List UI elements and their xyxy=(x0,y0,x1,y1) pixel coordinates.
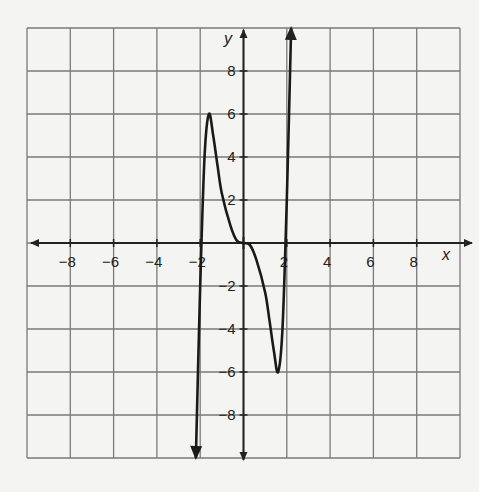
x-tick-label: −8 xyxy=(59,253,76,270)
x-axis-label: x xyxy=(441,246,451,263)
y-tick-label: −2 xyxy=(218,277,235,294)
x-tick-label: 8 xyxy=(410,253,418,270)
x-tick-label: 4 xyxy=(323,253,331,270)
function-graph: −8−6−4−224688642−2−4−6−8 x y xyxy=(0,0,479,492)
y-axis-label: y xyxy=(223,30,233,47)
function-curve xyxy=(190,28,291,460)
axes xyxy=(31,30,472,460)
x-tick-label: −6 xyxy=(102,253,119,270)
y-tick-label: 6 xyxy=(227,105,235,122)
y-tick-label: 8 xyxy=(227,62,235,79)
y-tick-label: −4 xyxy=(218,320,235,337)
x-tick-label: −2 xyxy=(189,253,206,270)
y-tick-label: 4 xyxy=(227,148,235,165)
y-tick-label: −8 xyxy=(218,406,235,423)
x-tick-label: −4 xyxy=(145,253,162,270)
y-tick-label: −6 xyxy=(218,363,235,380)
y-tick-label: 2 xyxy=(227,191,235,208)
x-tick-label: 6 xyxy=(366,253,374,270)
